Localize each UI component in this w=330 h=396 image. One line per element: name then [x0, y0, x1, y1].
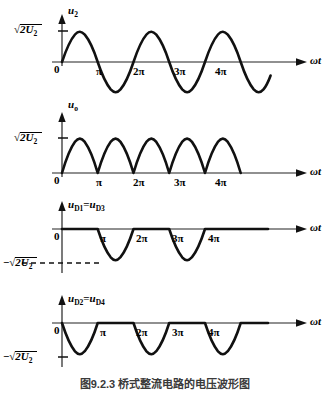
y-axis-label-ud1-sub: D1	[74, 204, 83, 213]
y-max-label-uo: √2U2	[14, 132, 37, 146]
tick-label-2pi-2: 2π	[133, 177, 145, 188]
y-axis-label-uo: uo	[68, 99, 78, 113]
y-max-label-uo-sub: 2	[34, 137, 38, 146]
y-axis-label-uo-sub: o	[74, 104, 78, 113]
y-axis-label-u2: u2	[68, 5, 78, 19]
panel-ud1-ud3: uD1=uD3 0 −√2U2 π 2π 3π 4π ωt	[0, 195, 330, 291]
origin-label-1: 0	[54, 64, 60, 75]
y-max-label-u2-sub: 2	[34, 29, 38, 38]
x-axis-label-4: ωt	[310, 316, 321, 327]
waveform-figure: u2 √2U2 0 π 2π 3π 4π ωt uo √2U2 0 π 2	[0, 0, 330, 396]
y-min-label-ud1-prefix: 2U	[15, 256, 28, 268]
panel-ud2-plot	[0, 291, 330, 375]
y-axis-arrow	[58, 14, 65, 24]
zero-label-4: 0	[54, 325, 60, 336]
panel-ud1-plot	[0, 195, 330, 291]
negative-humps-curve	[62, 323, 268, 354]
panel-uo: uo √2U2 0 π 2π 3π 4π ωt	[0, 96, 330, 195]
y-min-label-ud1-sub: 2	[29, 262, 33, 271]
sqrt-symbol-3: √	[9, 257, 15, 268]
y-min-label-ud2-sub: 2	[29, 356, 33, 365]
tick-label-3pi-4: 3π	[172, 327, 184, 338]
tick-label-4pi-1: 4π	[215, 66, 227, 77]
y-axis-label-ud2: uD2=uD4	[68, 293, 105, 307]
y-axis-label-ud1: uD1=uD3	[68, 199, 105, 213]
sqrt-symbol-2: √	[14, 132, 20, 143]
rectified-curve	[62, 139, 241, 173]
tick-label-pi-1: π	[96, 66, 102, 77]
y-max-label-u2-prefix: 2U	[20, 23, 33, 35]
panel-u2: u2 √2U2 0 π 2π 3π 4π ωt	[0, 0, 330, 96]
y-axis-label-u2-sub: 2	[74, 10, 78, 19]
negative-humps-curve	[62, 229, 268, 260]
tick-label-pi-3: π	[100, 233, 106, 244]
x-axis-label-1: ωt	[310, 55, 321, 66]
panel-uo-plot	[0, 96, 330, 195]
tick-label-4pi-2: 4π	[215, 177, 227, 188]
x-axis-arrow	[296, 225, 307, 232]
y-min-label-ud2-prefix: 2U	[15, 350, 28, 362]
figure-caption: 图9.2.3 桥式整流电路的电压波形图	[0, 378, 330, 391]
y-min-label-ud2: −√2U2	[3, 351, 33, 365]
sqrt-symbol-4: √	[9, 351, 15, 362]
x-axis-arrow	[296, 319, 307, 326]
zero-label-3: 0	[54, 231, 60, 242]
panel-u2-plot	[0, 0, 330, 96]
y-axis-arrow	[58, 295, 65, 305]
tick-label-3pi-2: 3π	[174, 177, 186, 188]
y-max-label-uo-prefix: 2U	[20, 131, 33, 143]
tick-label-3pi-3: 3π	[172, 233, 184, 244]
y-max-label-u2: √2U2	[14, 24, 37, 38]
tick-label-2pi-4: 2π	[136, 327, 148, 338]
x-axis-label-2: ωt	[310, 166, 321, 177]
tick-label-4pi-4: 4π	[208, 327, 220, 338]
origin-label-2: 0	[54, 175, 60, 186]
y-axis-arrow	[58, 112, 65, 122]
tick-label-3pi-1: 3π	[174, 66, 186, 77]
tick-label-2pi-1: 2π	[133, 66, 145, 77]
x-axis-arrow	[296, 58, 307, 65]
x-axis-arrow	[296, 169, 307, 176]
x-axis-label-3: ωt	[310, 222, 321, 233]
panel-ud2-ud4: uD2=uD4 0 −√2U2 π 2π 3π 4π ωt	[0, 291, 330, 375]
y-axis-label-ud3-sub: D3	[96, 204, 105, 213]
tick-label-pi-2: π	[96, 177, 102, 188]
y-axis-label-ud4-sub: D4	[96, 298, 105, 307]
tick-label-4pi-3: 4π	[208, 233, 220, 244]
y-axis-arrow	[58, 201, 65, 211]
y-axis-label-ud2-sub: D2	[74, 298, 83, 307]
sqrt-symbol-1: √	[14, 24, 20, 35]
y-min-label-ud1: −√2U2	[3, 257, 33, 271]
tick-label-2pi-3: 2π	[136, 233, 148, 244]
tick-label-pi-4: π	[100, 327, 106, 338]
